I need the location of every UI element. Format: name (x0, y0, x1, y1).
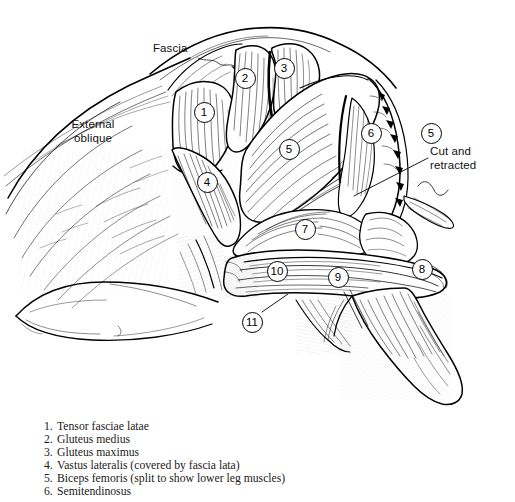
legend-label: Gluteus maximus (57, 446, 139, 459)
marker-9: 9 (328, 267, 349, 288)
legend-item: 5. Biceps femoris (split to show lower l… (0, 472, 515, 485)
legend-label: Biceps femoris (split to show lower leg … (57, 472, 285, 485)
anatomy-figure: Fascia External oblique Cut and retracte… (0, 0, 515, 502)
flank-fold (178, 236, 224, 298)
muscle-vastus-lateralis (172, 148, 241, 246)
illustration-svg (0, 0, 515, 420)
marker-10: 10 (267, 261, 288, 282)
marker-11-leader (262, 294, 288, 312)
label-cut-and-retracted: Cut and retracted (430, 145, 476, 172)
marker-6: 6 (361, 123, 382, 144)
legend-label: Gluteus medius (57, 433, 130, 446)
legend-item: 3. Gluteus maximus (0, 446, 515, 459)
legend-item: 1. Tensor fasciae latae (0, 420, 515, 433)
legend-item: 4. Vastus lateralis (covered by fascia l… (0, 459, 515, 472)
distal-limb (296, 298, 352, 354)
legend-key: 1. Tensor fasciae latae 2. Gluteus mediu… (0, 420, 515, 502)
anatomical-line-drawing (0, 0, 515, 420)
marker-8: 8 (412, 259, 433, 280)
marker-1: 1 (194, 102, 215, 123)
marker-3: 3 (274, 58, 295, 79)
marker-5-biceps-femoris-cut: 5 (421, 123, 442, 144)
label-external-oblique: External oblique (54, 118, 132, 145)
external-oblique-region (4, 58, 190, 308)
legend-item: 6. Semitendinosus (0, 485, 515, 498)
label-fascia: Fascia (153, 42, 187, 56)
marker-11: 11 (242, 312, 263, 333)
marker-4: 4 (197, 172, 218, 193)
legend-item: 2. Gluteus medius (0, 433, 515, 446)
marker-7: 7 (295, 219, 316, 240)
legend-label: Semitendinosus (57, 485, 131, 498)
legend-label: Vastus lateralis (covered by fascia lata… (57, 459, 240, 472)
marker-5-biceps-femoris-belly: 5 (279, 139, 300, 160)
legend-label: Tensor fasciae latae (57, 420, 149, 433)
marker-2: 2 (235, 68, 256, 89)
